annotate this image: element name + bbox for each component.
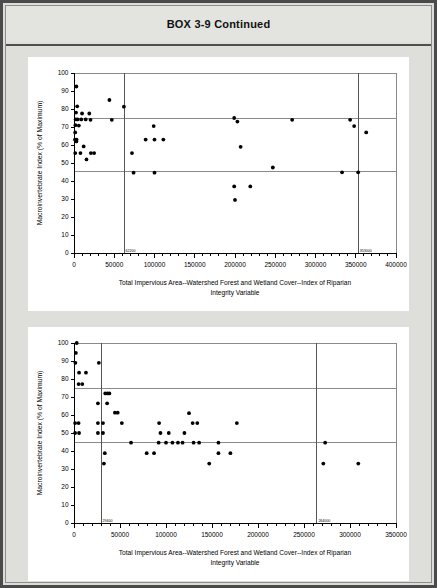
x-tick-label-bottom-4: 200000	[247, 531, 269, 538]
y-tick-label-bottom-6: 60	[61, 411, 69, 418]
data-point	[75, 341, 79, 345]
x-tick-label-bottom-3: 150000	[201, 531, 223, 538]
y-tick-label-bottom-4: 40	[61, 447, 69, 454]
data-point	[323, 441, 327, 445]
y-axis-title-top: Macroinvertebrate Index (% of Maximum)	[36, 101, 44, 226]
y-tick-label-top-4: 40	[61, 177, 69, 184]
data-point	[110, 118, 114, 122]
data-point	[75, 140, 79, 144]
y-tick-label-top-6: 60	[61, 141, 69, 148]
x-tick-label-top-6: 300000	[305, 261, 327, 268]
y-tick-label-bottom-10: 100	[58, 339, 69, 346]
x-axis-title-line1-top: Total Impervious Area--Watershed Forest …	[119, 279, 352, 287]
y-tick-label-bottom-8: 80	[61, 375, 69, 382]
data-point	[321, 462, 325, 466]
data-point	[176, 441, 180, 445]
data-point	[195, 421, 199, 425]
data-point	[239, 145, 243, 149]
x-axis-title-line2-bottom: Integrity Variable	[211, 559, 260, 567]
data-point	[145, 451, 149, 455]
data-point	[96, 431, 100, 435]
data-point	[96, 421, 100, 425]
data-point	[271, 166, 275, 170]
chart-card-bottom: 2940026400001020304050607080901000500001…	[28, 327, 409, 581]
data-point	[153, 138, 157, 142]
data-point	[352, 124, 356, 128]
data-point	[356, 170, 360, 174]
data-point	[74, 111, 78, 115]
data-point	[73, 361, 77, 365]
y-tick-label-top-7: 70	[61, 123, 69, 130]
data-point	[229, 451, 233, 455]
data-point	[80, 112, 84, 116]
data-point	[89, 118, 93, 122]
data-point	[181, 441, 185, 445]
data-point	[233, 198, 237, 202]
data-point	[356, 462, 360, 466]
data-point	[120, 421, 124, 425]
data-point	[157, 441, 161, 445]
y-tick-label-top-3: 30	[61, 195, 69, 202]
data-point	[130, 151, 134, 155]
data-point	[153, 171, 157, 175]
y-tick-label-top-1: 10	[61, 231, 69, 238]
y-tick-label-top-2: 20	[61, 213, 69, 220]
x-tick-label-bottom-0: 0	[72, 531, 76, 538]
data-point	[108, 392, 112, 396]
x-tick-label-top-1: 50000	[105, 261, 123, 268]
data-point	[364, 131, 368, 135]
title-divider	[6, 44, 431, 46]
scatter-plot-top: 6220035300001020304050607080901000500001…	[28, 57, 409, 311]
x-tick-label-top-3: 150000	[184, 261, 206, 268]
plot-frame-bottom	[74, 343, 396, 523]
data-point	[183, 431, 187, 435]
x-tick-label-bottom-7: 350000	[385, 531, 407, 538]
data-point	[76, 118, 80, 122]
data-point	[235, 421, 239, 425]
data-point	[132, 171, 136, 175]
v-reference-label-bottom-1: 264000	[318, 519, 330, 523]
x-tick-label-top-4: 200000	[224, 261, 246, 268]
data-point	[248, 185, 252, 189]
y-tick-label-bottom-1: 10	[61, 501, 69, 508]
y-tick-label-bottom-5: 50	[61, 429, 69, 436]
scatter-plot-bottom: 2940026400001020304050607080901000500001…	[28, 327, 409, 581]
y-tick-label-bottom-0: 0	[65, 519, 69, 526]
page-title: BOX 3-9 Continued	[167, 18, 271, 30]
x-tick-label-top-0: 0	[72, 261, 76, 268]
data-point	[340, 170, 344, 174]
data-point	[144, 138, 148, 142]
data-point	[102, 462, 106, 466]
y-tick-label-top-5: 50	[61, 159, 69, 166]
data-point	[97, 361, 101, 365]
data-point	[167, 431, 171, 435]
data-point	[217, 451, 221, 455]
data-point	[85, 158, 89, 162]
y-tick-label-top-8: 80	[61, 105, 69, 112]
data-point	[122, 105, 126, 109]
data-point	[77, 382, 81, 386]
y-tick-label-top-9: 90	[61, 87, 69, 94]
data-point	[74, 123, 78, 127]
data-point	[192, 441, 196, 445]
x-tick-label-bottom-1: 50000	[111, 531, 129, 538]
y-tick-label-bottom-9: 90	[61, 357, 69, 364]
x-tick-label-top-2: 100000	[144, 261, 166, 268]
data-point	[129, 441, 133, 445]
scatter-svg-top: 6220035300001020304050607080901000500001…	[28, 57, 409, 311]
data-point	[74, 351, 78, 355]
data-point	[164, 441, 168, 445]
v-reference-label-top-0: 62200	[126, 249, 136, 253]
data-point	[73, 151, 77, 155]
y-axis-title-bottom: Macroinvertebrate Index (% of Maximum)	[36, 371, 44, 496]
data-point	[236, 120, 240, 124]
data-point	[77, 371, 81, 375]
data-point	[73, 431, 77, 435]
data-point	[207, 462, 211, 466]
data-point	[171, 441, 175, 445]
data-point	[80, 382, 84, 386]
data-point	[290, 118, 294, 122]
data-point	[77, 421, 81, 425]
y-tick-label-bottom-7: 70	[61, 393, 69, 400]
data-point	[197, 441, 201, 445]
